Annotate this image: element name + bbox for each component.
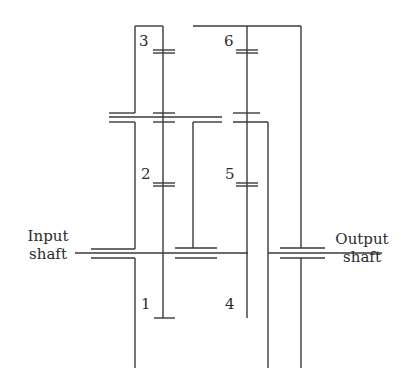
gear-label-2: 2 xyxy=(141,166,151,182)
gear-train-drawing xyxy=(0,0,415,381)
gear-label-5: 5 xyxy=(225,166,235,182)
gear-label-1: 1 xyxy=(141,296,151,312)
input-shaft-label: Input shaft xyxy=(20,227,76,263)
gear-label-4: 4 xyxy=(225,296,235,312)
gear-label-3: 3 xyxy=(139,33,149,49)
gear-label-6: 6 xyxy=(224,33,234,49)
output-shaft-label: Output shaft xyxy=(331,230,393,266)
